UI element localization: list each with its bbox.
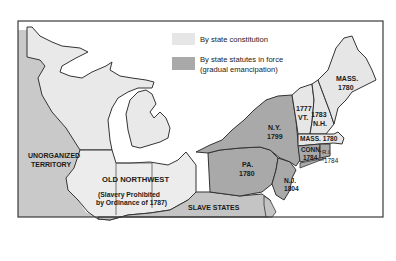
mass-label: MASS. 1780 bbox=[300, 135, 338, 142]
maine-mass-year: 1780 bbox=[338, 84, 354, 91]
ny-abbr: N.Y. bbox=[268, 124, 281, 131]
nh-year: 1783 bbox=[311, 111, 327, 118]
unorganized-territory-label-2: TERRITORY bbox=[31, 161, 71, 168]
maine-mass-abbr: MASS. bbox=[336, 75, 358, 82]
legend-swatch-statutes bbox=[172, 57, 195, 70]
map-svg: By state constitution By state statutes … bbox=[0, 0, 396, 261]
pa-abbr: PA. bbox=[242, 161, 253, 168]
slave-states-label: SLAVE STATES bbox=[188, 204, 240, 211]
ri-abbr: R.I. bbox=[322, 149, 332, 155]
old-northwest-title: OLD NORTHWEST bbox=[102, 175, 169, 184]
ny-year: 1799 bbox=[267, 133, 283, 140]
old-northwest-note-2: by Ordinance of 1787) bbox=[96, 199, 167, 207]
emancipation-map: By state constitution By state statutes … bbox=[0, 0, 396, 261]
legend-label-statutes-line1: By state statutes in force bbox=[200, 55, 283, 64]
nh-abbr: N.H. bbox=[313, 120, 327, 127]
ri-year: 1784 bbox=[324, 157, 339, 164]
legend-swatch-constitution bbox=[172, 33, 195, 45]
pa-year: 1780 bbox=[239, 170, 255, 177]
conn-abbr: CONN. bbox=[301, 146, 322, 153]
legend-label-statutes-line2: (gradual emancipation) bbox=[200, 65, 278, 74]
nj-year: 1804 bbox=[284, 185, 299, 192]
conn-year: 1784 bbox=[303, 154, 318, 161]
legend-label-constitution: By state constitution bbox=[200, 35, 268, 44]
unorganized-territory-label-1: UNORGANIZED bbox=[28, 152, 80, 159]
old-northwest-note-1: (Slavery Prohibited bbox=[98, 191, 160, 199]
nj-abbr: N.J. bbox=[284, 177, 296, 184]
vt-year: 1777 bbox=[296, 105, 312, 112]
vt-abbr: VT. bbox=[298, 114, 308, 121]
